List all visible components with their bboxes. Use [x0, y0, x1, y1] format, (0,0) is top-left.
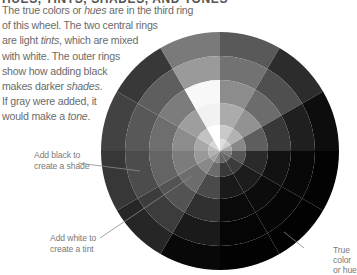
annotation-hue-line1: True: [333, 245, 357, 255]
annotation-shade-line2: create a shade: [34, 161, 89, 172]
intro-line: are light tints, which are mixed: [2, 33, 302, 48]
annotation-tint-line1: Add white to: [50, 233, 96, 244]
intro-line: show how adding black: [2, 64, 302, 79]
intro-line: The true colors or hues are in the third…: [2, 3, 302, 18]
intro-line: of this wheel. The two central rings: [2, 18, 302, 33]
intro-line: If gray were added, it: [2, 94, 302, 109]
annotation-tint: Add white to create a tint: [50, 233, 96, 255]
intro-line: with white. The outer rings: [2, 49, 302, 64]
intro-text: The true colors or hues are in the third…: [2, 3, 302, 125]
intro-line: would make a tone.: [2, 109, 302, 124]
annotation-tint-line2: create a tint: [50, 244, 96, 255]
annotation-hue: True color or hue: [333, 245, 357, 275]
annotation-shade-line1: Add black to: [34, 150, 89, 161]
annotation-hue-line2: color: [333, 255, 357, 265]
annotation-shade: Add black to create a shade: [34, 150, 89, 172]
intro-line: makes darker shades.: [2, 79, 302, 94]
annotation-hue-line3: or hue: [333, 265, 357, 275]
